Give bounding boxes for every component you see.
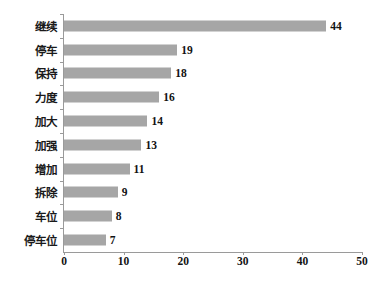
category-label: 加大	[35, 113, 57, 129]
x-axis-tick-label: 20	[177, 255, 189, 267]
y-axis-tick	[60, 109, 64, 110]
bar	[64, 92, 159, 103]
bar-chart: 继续44停车19保持18力度16加大14加强13增加11拆除9车位8停车位7 0…	[0, 0, 373, 289]
bar	[64, 68, 171, 79]
bar-row: 拆除9	[64, 181, 362, 205]
bar-value-label: 8	[116, 210, 122, 222]
y-axis-tick	[60, 228, 64, 229]
bar-row: 力度16	[64, 85, 362, 109]
bar	[64, 163, 130, 174]
bar-value-label: 19	[181, 44, 193, 56]
bar	[64, 116, 147, 127]
bar-value-label: 16	[163, 91, 175, 103]
bar-row: 车位8	[64, 204, 362, 228]
category-label: 增加	[35, 161, 57, 177]
x-axis-tick-label: 50	[356, 255, 368, 267]
y-axis-tick	[60, 181, 64, 182]
category-label: 停车	[35, 42, 57, 58]
category-label: 拆除	[35, 184, 57, 200]
x-axis-line	[63, 252, 362, 253]
bar	[64, 235, 106, 246]
x-axis-tick-label: 10	[118, 255, 130, 267]
bar-row: 继续44	[64, 14, 362, 38]
bar-row: 加强13	[64, 133, 362, 157]
bar	[64, 211, 112, 222]
category-label: 保持	[35, 65, 57, 81]
bar-row: 增加11	[64, 157, 362, 181]
bar-value-label: 44	[330, 20, 342, 32]
category-label: 继续	[35, 18, 57, 34]
bar	[64, 20, 326, 31]
category-label: 车位	[35, 208, 57, 224]
y-axis-tick	[60, 14, 64, 15]
bar-row: 加大14	[64, 109, 362, 133]
y-axis-tick	[60, 85, 64, 86]
x-axis-tick-label: 40	[297, 255, 309, 267]
x-axis-tick-label: 30	[237, 255, 249, 267]
bar-value-label: 18	[175, 67, 187, 79]
bar-value-label: 13	[145, 139, 157, 151]
category-label: 力度	[35, 89, 57, 105]
bar	[64, 187, 118, 198]
category-label: 加强	[35, 137, 57, 153]
bar-row: 停车19	[64, 38, 362, 62]
y-axis-tick	[60, 133, 64, 134]
bar-value-label: 9	[122, 186, 128, 198]
bar	[64, 139, 141, 150]
bar-row: 保持18	[64, 62, 362, 86]
y-axis-tick	[60, 157, 64, 158]
y-axis-tick	[60, 204, 64, 205]
y-axis-tick	[60, 62, 64, 63]
plot-area: 继续44停车19保持18力度16加大14加强13增加11拆除9车位8停车位7	[64, 14, 362, 252]
y-axis-tick	[60, 38, 64, 39]
bar-row: 停车位7	[64, 228, 362, 252]
bar-value-label: 7	[110, 234, 116, 246]
bar	[64, 44, 177, 55]
bar-value-label: 14	[151, 115, 163, 127]
category-label: 停车位	[24, 232, 57, 248]
bar-value-label: 11	[134, 163, 145, 175]
x-axis-tick-label: 0	[61, 255, 67, 267]
